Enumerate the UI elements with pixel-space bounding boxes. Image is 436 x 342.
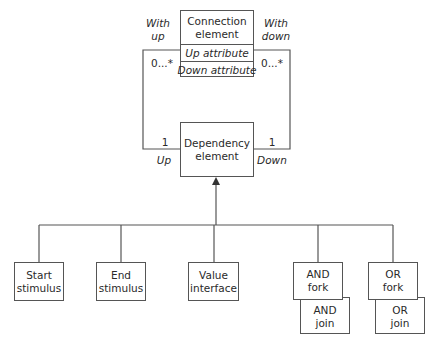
start-stimulus-line1: Start — [26, 269, 52, 282]
and-fork-box: AND fork — [293, 262, 343, 300]
dependency-element-box: Dependency element — [180, 122, 254, 177]
end-stimulus-line1: End — [111, 269, 131, 282]
multiplicity-left-bottom: 1 — [158, 136, 172, 149]
role-down: Down — [256, 154, 288, 167]
connection-element-title-2: element — [195, 28, 238, 41]
down-attribute: Down attribute — [181, 62, 253, 78]
connection-element-title-1: Connection — [187, 15, 246, 28]
role-with-down: With down — [256, 17, 296, 43]
and-fork-line2: fork — [308, 281, 329, 294]
or-fork-line1: OR — [385, 268, 401, 281]
role-with-down-line2: down — [256, 30, 296, 43]
start-stimulus-line2: stimulus — [17, 282, 61, 295]
or-join-line1: OR — [392, 304, 408, 317]
up-attribute: Up attribute — [181, 45, 253, 62]
value-interface-box: Value interface — [188, 262, 239, 301]
or-fork-box: OR fork — [368, 262, 418, 300]
role-with-down-line1: With — [256, 17, 296, 30]
connection-element-box: Connection element Up attribute Down att… — [180, 10, 254, 77]
value-interface-line1: Value — [199, 269, 228, 282]
role-with-up-line1: With — [138, 17, 178, 30]
and-join-box: AND join — [300, 297, 350, 334]
dependency-element-line1: Dependency — [184, 137, 250, 150]
or-join-box: OR join — [375, 297, 425, 334]
end-stimulus-box: End stimulus — [96, 262, 146, 301]
role-up: Up — [150, 154, 178, 167]
multiplicity-right-bottom: 1 — [265, 136, 279, 149]
multiplicity-right-top: 0...* — [256, 57, 288, 70]
dependency-element-line2: element — [195, 150, 238, 163]
role-with-up-line2: up — [138, 30, 178, 43]
start-stimulus-box: Start stimulus — [14, 262, 64, 301]
and-fork-line1: AND — [306, 268, 329, 281]
generalization-arrowhead — [212, 177, 220, 185]
or-fork-line2: fork — [383, 281, 404, 294]
and-join-line1: AND — [313, 304, 336, 317]
multiplicity-left-top: 0...* — [146, 57, 178, 70]
role-with-up: With up — [138, 17, 178, 43]
or-join-line2: join — [391, 317, 410, 330]
and-join-line2: join — [316, 317, 335, 330]
value-interface-line2: interface — [190, 282, 237, 295]
end-stimulus-line2: stimulus — [99, 282, 143, 295]
